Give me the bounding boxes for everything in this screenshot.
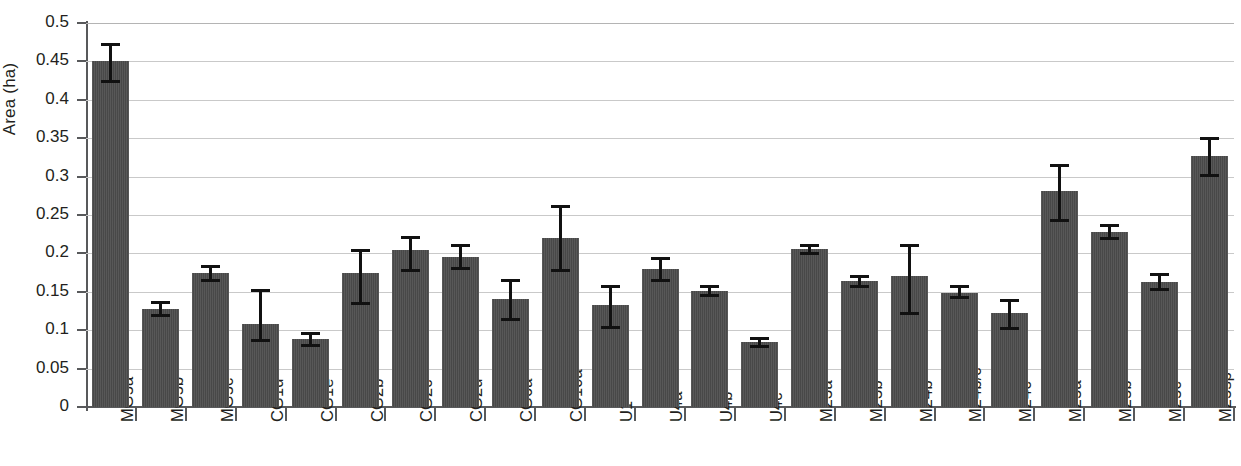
error-bar-cap-upper <box>151 301 170 304</box>
error-bar-stem <box>509 280 512 319</box>
y-tick-label: 0 <box>60 396 69 416</box>
error-bar-cap-lower <box>850 285 869 288</box>
y-tick-mark <box>77 214 86 216</box>
error-bar-cap-upper <box>850 275 869 278</box>
gridline <box>86 61 1234 62</box>
y-tick-mark <box>77 22 86 24</box>
error-bar-cap-upper <box>551 205 570 208</box>
error-bar-cap-lower <box>551 269 570 272</box>
error-bar-cap-upper <box>1150 273 1169 276</box>
error-bar-cap-lower <box>1100 237 1119 240</box>
bar <box>92 61 129 407</box>
gridline <box>86 23 1234 24</box>
error-bar-stem <box>459 245 462 268</box>
error-bar-stem <box>209 266 212 280</box>
error-bar-stem <box>409 237 412 270</box>
error-bar-cap-upper <box>451 244 470 247</box>
error-bar-stem <box>1208 138 1211 175</box>
y-tick-label: 0.35 <box>36 127 69 147</box>
bar <box>442 257 479 407</box>
y-tick-label: 0.2 <box>45 242 69 262</box>
error-bar-cap-upper <box>1100 224 1119 227</box>
error-bar-cap-lower <box>700 294 719 297</box>
error-bar-cap-upper <box>700 285 719 288</box>
error-bar-stem <box>359 250 362 303</box>
error-bar-cap-upper <box>251 289 270 292</box>
error-bar-cap-lower <box>950 296 969 299</box>
error-bar-stem <box>609 286 612 327</box>
error-bar-stem <box>1158 274 1161 289</box>
bar <box>1191 156 1228 407</box>
bar <box>392 250 429 407</box>
bar <box>1141 282 1178 407</box>
gridline <box>86 177 1234 178</box>
error-bar-cap-lower <box>601 326 620 329</box>
bar <box>642 269 679 407</box>
y-tick-label: 0.3 <box>45 166 69 186</box>
y-axis-title: Area (ha) <box>0 24 20 174</box>
error-bar-cap-lower <box>750 345 769 348</box>
error-bar-cap-upper <box>750 337 769 340</box>
bar <box>741 342 778 407</box>
error-bar-cap-upper <box>1050 164 1069 167</box>
error-bar-stem <box>109 44 112 82</box>
bar <box>791 249 828 407</box>
bar <box>292 339 329 407</box>
error-bar-stem <box>259 290 262 340</box>
bar <box>941 293 978 407</box>
y-tick-mark <box>77 60 86 62</box>
bar <box>142 309 179 407</box>
y-tick-label: 0.5 <box>45 12 69 32</box>
error-bar-cap-upper <box>351 249 370 252</box>
error-bar-cap-lower <box>451 267 470 270</box>
error-bar-cap-lower <box>251 339 270 342</box>
y-tick-label: 0.4 <box>45 89 69 109</box>
error-bar-cap-upper <box>900 244 919 247</box>
y-tick-label: 0.25 <box>36 204 69 224</box>
bar <box>691 291 728 407</box>
bar-chart: Area (ha) 0.50.450.40.350.30.250.20.150.… <box>0 0 1241 466</box>
error-bar-stem <box>1008 300 1011 328</box>
y-tick-mark <box>77 176 86 178</box>
y-tick-mark <box>77 137 86 139</box>
y-tick-mark <box>77 368 86 370</box>
error-bar-stem <box>559 206 562 271</box>
error-bar-cap-lower <box>1200 174 1219 177</box>
error-bar-cap-lower <box>201 279 220 282</box>
error-bar-cap-upper <box>401 236 420 239</box>
error-bar-cap-upper <box>201 265 220 268</box>
bar <box>1041 191 1078 407</box>
bar <box>192 273 229 407</box>
y-tick-label: 0.05 <box>36 358 69 378</box>
error-bar-cap-lower <box>351 302 370 305</box>
error-bar-cap-upper <box>800 244 819 247</box>
y-tick-label: 0.1 <box>45 319 69 339</box>
error-bar-stem <box>659 258 662 280</box>
error-bar-stem <box>1058 165 1061 220</box>
error-bar-cap-lower <box>1050 219 1069 222</box>
bar <box>841 281 878 407</box>
error-bar-stem <box>908 245 911 313</box>
gridline <box>86 138 1234 139</box>
error-bar-cap-upper <box>1200 137 1219 140</box>
y-tick-mark <box>77 291 86 293</box>
error-bar-cap-lower <box>1000 327 1019 330</box>
error-bar-cap-upper <box>501 279 520 282</box>
y-tick-mark <box>77 329 86 331</box>
error-bar-cap-upper <box>1000 299 1019 302</box>
error-bar-cap-lower <box>301 344 320 347</box>
y-tick-mark <box>77 406 86 408</box>
error-bar-cap-upper <box>950 285 969 288</box>
error-bar-cap-lower <box>1150 288 1169 291</box>
gridline <box>86 100 1234 101</box>
y-tick-mark <box>77 99 86 101</box>
error-bar-cap-lower <box>501 318 520 321</box>
error-bar-cap-upper <box>601 285 620 288</box>
bar <box>1091 232 1128 407</box>
y-tick-label: 0.15 <box>36 281 69 301</box>
error-bar-cap-lower <box>101 80 120 83</box>
error-bar-cap-upper <box>301 332 320 335</box>
error-bar-cap-lower <box>900 312 919 315</box>
error-bar-cap-lower <box>800 252 819 255</box>
y-tick-mark <box>77 252 86 254</box>
